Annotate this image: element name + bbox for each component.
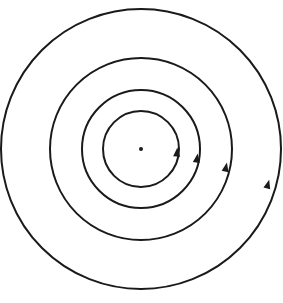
center-point: [139, 147, 143, 151]
concentric-field-diagram: [0, 0, 283, 303]
arrowhead-icon: [222, 163, 229, 173]
arrowhead-icon: [263, 180, 270, 190]
